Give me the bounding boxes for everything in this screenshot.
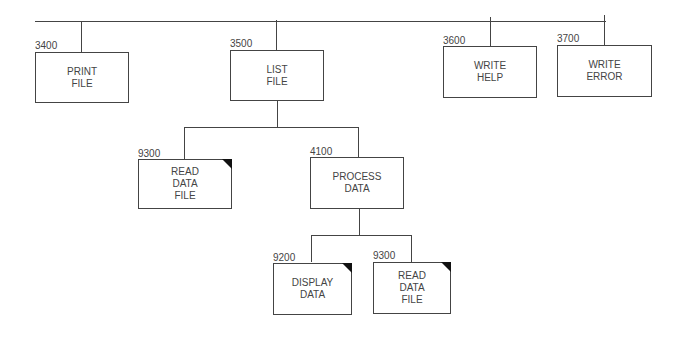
library-module-marker-icon [222,159,232,169]
module-number: 3700 [557,33,579,44]
connector-list-down [277,101,278,128]
module-label: ERROR [586,71,622,83]
connector-process-down [359,209,360,236]
connector-process-data [358,127,359,158]
module-label: WRITE [588,59,620,71]
library-module-marker-icon [441,262,451,272]
module-display-data[interactable]: DISPLAY DATA [273,263,352,315]
connector-print-file [81,21,82,52]
module-number: 9300 [138,148,160,159]
connector-write-help [490,17,491,47]
module-label: DATA [399,282,424,294]
module-label: DATA [172,178,197,190]
module-process-data[interactable]: PROCESS DATA [310,157,404,209]
module-label: PRINT [67,66,97,78]
module-number: 9300 [373,250,395,261]
module-list-file[interactable]: LIST FILE [230,50,324,101]
connector-read-data-file-1 [184,127,185,160]
library-module-marker-icon [342,263,352,273]
connector-list-file [276,20,277,50]
module-print-file[interactable]: PRINT FILE [35,52,129,103]
connector-process-bus [311,235,412,236]
module-read-data-file-1[interactable]: READ DATA FILE [138,159,232,209]
module-label: LIST [266,64,287,76]
module-label: FILE [266,76,287,88]
module-write-error[interactable]: WRITE ERROR [557,45,652,97]
module-number: 4100 [310,146,332,157]
connector-write-error [604,15,605,45]
module-label: PROCESS [333,171,382,183]
top-connector-line [35,21,606,22]
module-number: 3600 [443,35,465,46]
module-read-data-file-2[interactable]: READ DATA FILE [373,262,451,314]
module-label: DATA [344,183,369,195]
module-label: DISPLAY [292,277,334,289]
connector-read-data-file-2 [411,235,412,262]
connector-display-data [311,235,312,262]
connector-list-bus [184,127,359,128]
module-label: READ [398,270,426,282]
module-label: HELP [477,72,503,84]
module-write-help[interactable]: WRITE HELP [443,46,537,98]
module-label: READ [171,166,199,178]
module-number: 3400 [35,40,57,51]
module-label: WRITE [474,60,506,72]
module-label: FILE [401,294,422,306]
module-label: FILE [71,78,92,90]
module-number: 3500 [230,38,252,49]
module-label: FILE [174,190,195,202]
module-number: 9200 [273,252,295,263]
module-label: DATA [300,289,325,301]
